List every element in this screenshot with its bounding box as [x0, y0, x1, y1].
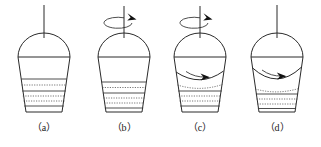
curved-liquid-surface: [253, 68, 301, 79]
sediment-layer-line: [255, 89, 299, 92]
rotation-arrowhead: [203, 13, 212, 20]
panel-b-drawing: [84, 0, 164, 124]
figure-panel-d: （d）: [237, 0, 317, 147]
body-left-wall: [174, 57, 182, 112]
panel-caption-b: （b）: [84, 122, 164, 134]
curved-liquid-surface: [176, 71, 224, 80]
body-right-wall: [62, 57, 70, 112]
panel-d-drawing: [237, 0, 317, 124]
rotation-arrow-ellipse: [104, 17, 132, 28]
sediment-layer-line: [177, 85, 222, 89]
body-left-wall: [98, 57, 106, 112]
rotation-arrow-ellipse: [180, 17, 208, 28]
figure-panel-c: （c）: [160, 0, 240, 147]
panel-caption-d: （d）: [237, 122, 317, 134]
panel-c-drawing: [160, 0, 240, 124]
figure-panel-a: （a）: [4, 0, 84, 147]
body-right-wall: [142, 57, 150, 112]
panel-caption-c: （c）: [160, 122, 240, 134]
body-left-wall: [18, 57, 26, 112]
figure-container: （a） （b）: [0, 0, 321, 147]
panel-caption-a: （a）: [4, 122, 84, 134]
figure-panel-b: （b）: [84, 0, 164, 147]
rotation-arrowhead: [127, 13, 136, 20]
panel-a-drawing: [4, 0, 84, 124]
body-right-wall: [295, 57, 303, 112]
